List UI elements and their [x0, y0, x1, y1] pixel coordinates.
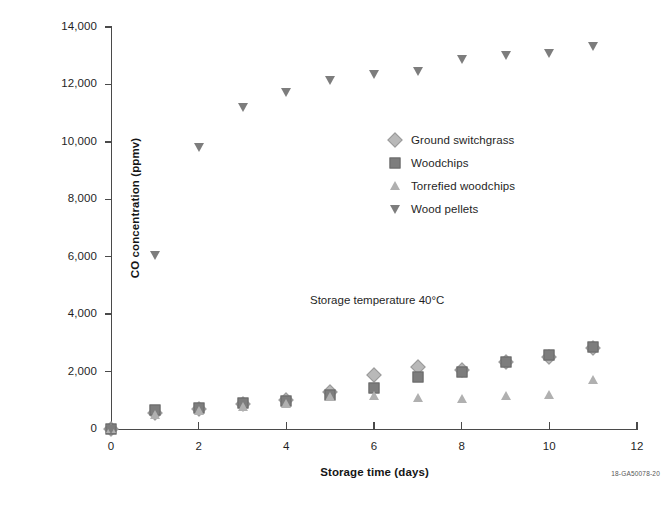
x-tick-label: 8: [442, 440, 482, 452]
data-point-marker: [588, 375, 598, 384]
x-tick-mark: [549, 422, 550, 429]
x-tick-mark: [286, 422, 287, 429]
marker-glyph: [387, 132, 403, 148]
legend-label: Wood pellets: [411, 203, 478, 215]
data-point-marker: [544, 390, 554, 399]
y-tick-mark: [105, 256, 112, 257]
legend-item: Torrefied woodchips: [386, 174, 586, 197]
data-point-marker: [413, 67, 423, 76]
x-tick-label: 2: [179, 440, 219, 452]
data-point-marker: [150, 251, 160, 260]
data-point-marker: [456, 366, 467, 377]
data-point-marker: [238, 103, 248, 112]
data-point-marker: [238, 402, 248, 411]
data-point-marker: [588, 42, 598, 51]
data-point-marker: [501, 391, 511, 400]
y-tick-label: 14,000: [35, 20, 97, 32]
x-tick-label: 12: [617, 440, 657, 452]
y-tick-label: 2,000: [35, 365, 97, 377]
data-point-marker: [325, 76, 335, 85]
y-tick-mark: [105, 26, 112, 27]
y-axis-title: CO concentration (ppmv): [129, 88, 141, 328]
y-axis-line: [111, 27, 112, 430]
chart-figure: CO concentration (ppmv) 02,0004,0006,000…: [0, 0, 672, 510]
marker-glyph: [390, 157, 401, 168]
data-point-marker: [457, 55, 467, 64]
y-tick-label: 12,000: [35, 77, 97, 89]
legend-square-icon: [386, 154, 404, 172]
legend-diamond-icon: [386, 131, 404, 149]
chart-legend: Ground switchgrassWoodchipsTorrefied woo…: [386, 128, 586, 220]
data-point-marker: [281, 399, 291, 408]
x-tick-label: 10: [529, 440, 569, 452]
data-point-marker: [325, 392, 335, 401]
legend-label: Torrefied woodchips: [411, 180, 515, 192]
x-tick-mark: [461, 422, 462, 429]
y-tick-label: 8,000: [35, 192, 97, 204]
data-point-marker: [544, 49, 554, 58]
storage-temperature-annotation: Storage temperature 40°C: [310, 294, 444, 306]
data-point-marker: [500, 357, 511, 368]
data-point-marker: [106, 425, 116, 434]
x-tick-mark: [198, 422, 199, 429]
data-point-marker: [281, 88, 291, 97]
data-point-marker: [369, 391, 379, 400]
y-tick-mark: [105, 313, 112, 314]
y-tick-mark: [105, 84, 112, 85]
data-point-marker: [501, 51, 511, 60]
legend-item: Ground switchgrass: [386, 128, 586, 151]
y-tick-mark: [105, 371, 112, 372]
legend-triangle-down-icon: [386, 200, 404, 218]
marker-glyph: [390, 204, 400, 213]
data-point-marker: [412, 372, 423, 383]
y-tick-label: 6,000: [35, 250, 97, 262]
figure-id-label: 18-GA50078-20: [611, 470, 660, 477]
data-point-marker: [150, 410, 160, 419]
x-tick-mark: [373, 422, 374, 429]
data-point-marker: [194, 406, 204, 415]
x-tick-label: 0: [91, 440, 131, 452]
data-point-marker: [588, 341, 599, 352]
data-point-marker: [194, 143, 204, 152]
y-tick-label: 0: [35, 422, 97, 434]
data-point-marker: [457, 394, 467, 403]
x-axis-title: Storage time (days): [111, 466, 638, 478]
y-tick-mark: [105, 141, 112, 142]
legend-triangle-up-icon: [386, 177, 404, 195]
y-tick-label: 4,000: [35, 307, 97, 319]
data-point-marker: [413, 393, 423, 402]
legend-label: Ground switchgrass: [411, 134, 514, 146]
legend-item: Wood pellets: [386, 197, 586, 220]
data-point-marker: [369, 70, 379, 79]
legend-label: Woodchips: [411, 157, 469, 169]
y-tick-mark: [105, 199, 112, 200]
y-tick-label: 10,000: [35, 135, 97, 147]
x-tick-label: 6: [354, 440, 394, 452]
x-tick-mark: [636, 422, 637, 429]
legend-item: Woodchips: [386, 151, 586, 174]
marker-glyph: [390, 181, 400, 190]
x-tick-label: 4: [266, 440, 306, 452]
data-point-marker: [544, 350, 555, 361]
